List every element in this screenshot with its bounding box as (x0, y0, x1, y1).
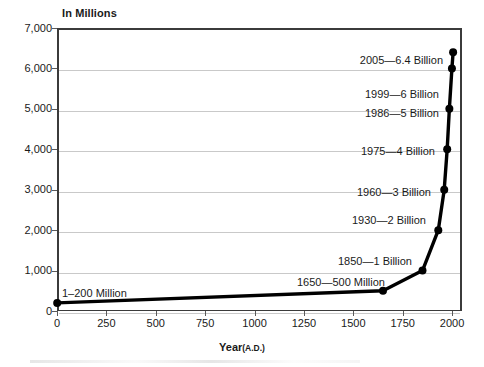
y-axis-title: In Millions (62, 7, 117, 19)
y-tick-label: 2,000 (7, 225, 52, 236)
annotation-year-1650: 1650—500 Million (170, 276, 385, 288)
x-tick-label: 2000 (422, 318, 482, 329)
y-tick-label: 6,000 (7, 63, 52, 74)
annotation-year-1986: 1986—5 Billion (200, 107, 439, 119)
x-tick-mark (205, 311, 206, 316)
y-axis-ticks: 01,0002,0003,0004,0005,0006,0007,000 (0, 0, 52, 367)
y-tick-mark (52, 28, 57, 29)
x-axis-title-suffix: (A.D.) (242, 343, 265, 353)
y-tick-mark (52, 68, 57, 69)
x-tick-mark (403, 311, 404, 316)
y-tick-label: 5,000 (7, 103, 52, 114)
y-tick-label: 3,000 (7, 184, 52, 195)
x-tick-mark (106, 311, 107, 316)
y-tick-label: 4,000 (7, 144, 52, 155)
annotation-year-1850: 1850—1 Billion (190, 255, 412, 267)
y-tick-mark (52, 149, 57, 150)
population-growth-chart: In Millions 01,0002,0003,0004,0005,0006,… (0, 0, 484, 367)
x-tick-mark (156, 311, 157, 316)
gridline (59, 232, 460, 233)
x-tick-mark (452, 311, 453, 316)
y-tick-label: 1,000 (7, 265, 52, 276)
x-axis-title: Year(A.D.) (0, 341, 484, 353)
annotation-year-1975: 1975—4 Billion (200, 145, 435, 157)
page-edge-artifact (30, 360, 360, 363)
x-tick-mark (353, 311, 354, 316)
y-tick-mark (52, 230, 57, 231)
gridline (59, 313, 460, 314)
y-tick-mark (52, 271, 57, 272)
y-tick-label: 7,000 (7, 23, 52, 34)
annotation-year-1960: 1960—3 Billion (200, 186, 431, 198)
y-tick-mark (52, 190, 57, 191)
annotation-year-2005: 2005—6.4 Billion (200, 54, 443, 66)
gridline (59, 70, 460, 71)
annotation-year-1930: 1930—2 Billion (200, 214, 426, 226)
gridline (59, 273, 460, 274)
y-tick-mark (52, 109, 57, 110)
plot-area (57, 28, 462, 311)
annotation-year-1999: 1999—6 Billion (200, 88, 439, 100)
x-tick-mark (255, 311, 256, 316)
x-tick-mark (57, 311, 58, 316)
y-tick-label: 0 (7, 306, 52, 317)
annotation-year-1: 1–200 Million (62, 287, 127, 299)
x-axis-title-text: Year (219, 341, 242, 353)
x-tick-mark (304, 311, 305, 316)
